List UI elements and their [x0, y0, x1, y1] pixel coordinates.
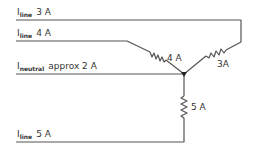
label-load-3a: 3A: [217, 60, 229, 69]
label-load-5a: 5 A: [191, 103, 206, 112]
resistor-3a: [206, 49, 226, 58]
resistor-5a: [181, 96, 187, 118]
wire-3a-to-node: [184, 56, 206, 74]
label-neutral: Ineutralapprox 2 A: [17, 62, 97, 72]
wire-line-4a: [16, 41, 150, 52]
resistor-4a: [150, 52, 166, 62]
label-line-5a: Iline5 A: [17, 130, 51, 140]
label-line-4a: Iline4 A: [17, 29, 51, 39]
label-line-3a: Iline3 A: [17, 8, 51, 18]
label-load-4a: 4 A: [167, 54, 182, 63]
